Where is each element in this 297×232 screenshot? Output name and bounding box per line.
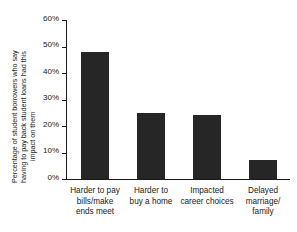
y-axis-tick-label: 20% [43, 121, 59, 129]
bar [249, 160, 277, 179]
x-axis-category-label: Harder tobuy a home [123, 186, 179, 207]
x-axis-category-label-line: bills/make [67, 197, 123, 208]
x-axis-category-label-line: Impacted [179, 186, 235, 197]
y-axis-tick-label: 60% [43, 15, 59, 23]
y-axis-tick-mark [62, 179, 66, 180]
y-axis-title-line-3: impact on them [29, 112, 36, 161]
x-axis-category-label: Harder to paybills/makeends meet [67, 186, 123, 218]
x-axis-category-label-line: ends meet [67, 207, 123, 218]
x-axis-category-label-line: family [235, 207, 291, 218]
plot-area: 0%10%20%30%40%50%60% [66, 20, 290, 180]
y-axis-tick-label: 10% [43, 147, 59, 155]
bar [81, 52, 109, 179]
y-axis-tick-mark [62, 20, 66, 21]
x-axis-category-label-line: career choices [179, 197, 235, 208]
y-axis-tick-label: 0% [47, 174, 59, 182]
y-axis-tick-label: 50% [43, 41, 59, 49]
x-axis-category-label-line: Delayed [235, 186, 291, 197]
x-axis-line [66, 179, 290, 180]
x-axis-category-label: Impactedcareer choices [179, 186, 235, 207]
y-axis-tick-label: 40% [43, 68, 59, 76]
bar [137, 113, 165, 179]
x-axis-category-label-line: buy a home [123, 197, 179, 208]
y-axis-line [66, 20, 67, 180]
y-axis-tick-mark [62, 126, 66, 127]
y-axis-title: Percentage of student borrowers who say … [0, 0, 46, 186]
y-axis-tick-label: 30% [43, 94, 59, 102]
x-axis-category-label-line: Harder to [123, 186, 179, 197]
x-axis-category-label: Delayedmarriage/family [235, 186, 291, 218]
bar [193, 115, 221, 179]
y-axis-title-line-1: Percentage of student borrowers who say [11, 50, 18, 183]
y-axis-tick-mark [62, 73, 66, 74]
y-axis-tick-mark [62, 153, 66, 154]
y-axis-tick-mark [62, 100, 66, 101]
y-axis-title-line-2: having to pay back student loans had thi… [20, 51, 27, 183]
x-axis-category-label-line: Harder to pay [67, 186, 123, 197]
y-axis-tick-mark [62, 47, 66, 48]
bar-chart: Percentage of student borrowers who say … [0, 0, 297, 232]
x-axis-category-label-line: marriage/ [235, 197, 291, 208]
